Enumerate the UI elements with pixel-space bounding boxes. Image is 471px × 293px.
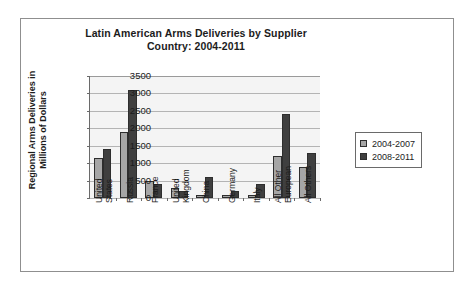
x-axis-category-label-line: Italy xyxy=(253,187,263,203)
legend-label: 2008-2011 xyxy=(372,152,414,162)
x-axis-tick-mark xyxy=(294,198,295,201)
y-axis-title-line-2: Millions of Dollars xyxy=(38,55,49,205)
x-axis-category-label-line: China xyxy=(202,181,212,203)
x-axis-category-label-line: United xyxy=(172,169,182,203)
x-axis-category-label: France xyxy=(151,177,161,203)
x-axis-category-label: UnitedKingdom xyxy=(172,169,191,203)
x-axis-category-label-line: Germany xyxy=(228,168,238,203)
x-axis-category-label-line: States xyxy=(105,178,115,203)
x-axis-category-label: Germany xyxy=(228,168,238,203)
bar-group xyxy=(192,76,218,198)
y-axis-tick-label: 2000 xyxy=(115,123,151,133)
x-axis-tick-mark xyxy=(192,198,193,201)
y-axis-tick-mark xyxy=(87,198,90,199)
x-axis-category-label-line: Kingdom xyxy=(181,169,191,203)
y-axis-title-line-1: Regional Arms Deliveries in xyxy=(27,55,38,205)
y-axis-tick-label: 3000 xyxy=(115,88,151,98)
x-axis-tick-mark xyxy=(269,198,270,201)
chart-figure-frame: Latin American Arms Deliveries by Suppli… xyxy=(20,18,454,272)
legend-swatch-icon xyxy=(360,153,367,160)
x-axis-tick-mark xyxy=(218,198,219,201)
chart-legend: 2004-20072008-2011 xyxy=(355,132,422,168)
y-axis-tick-label: 3500 xyxy=(115,71,151,81)
chart-title: Latin American Arms Deliveries by Suppli… xyxy=(21,27,371,53)
legend-label: 2004-2007 xyxy=(372,139,415,149)
y-axis-tick-label: 1000 xyxy=(115,158,151,168)
x-axis-category-label-line: All Others xyxy=(304,166,314,203)
legend-item[interactable]: 2008-2011 xyxy=(360,150,415,163)
x-axis-tick-mark xyxy=(167,198,168,201)
x-axis-category-label: China xyxy=(202,181,212,203)
y-axis-tick-label: 1500 xyxy=(115,141,151,151)
x-axis-tick-mark xyxy=(243,198,244,201)
x-axis-category-label-line: France xyxy=(151,177,161,203)
x-axis-category-label: UnitedStates xyxy=(95,178,114,203)
legend-swatch-icon xyxy=(360,140,367,147)
chart-title-line-1: Latin American Arms Deliveries by Suppli… xyxy=(21,27,371,40)
x-axis-category-label: Russia xyxy=(126,177,136,203)
chart-title-line-2: Country: 2004-2011 xyxy=(21,40,371,53)
legend-item[interactable]: 2004-2007 xyxy=(360,137,415,150)
x-axis-category-label: Italy xyxy=(253,187,263,203)
y-axis-tick-label: 2500 xyxy=(115,106,151,116)
y-axis-title: Regional Arms Deliveries in Millions of … xyxy=(27,55,49,205)
x-axis-category-label-line: European xyxy=(284,166,294,203)
x-axis-tick-mark xyxy=(320,198,321,201)
x-axis-category-label: All OtherEuropean xyxy=(274,166,293,203)
x-axis-category-label: All Others xyxy=(304,166,314,203)
bar-group xyxy=(243,76,269,198)
x-axis-category-label-line: Russia xyxy=(126,177,136,203)
